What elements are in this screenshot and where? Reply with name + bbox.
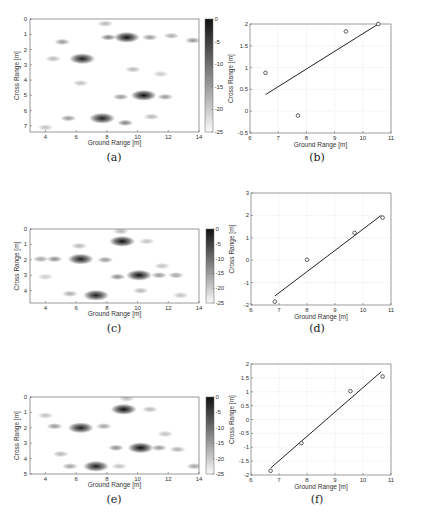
colorbar-tick-label: -5 bbox=[216, 241, 222, 247]
y-tick-label: 1 bbox=[24, 241, 28, 247]
x-tick-label: 6 bbox=[74, 476, 78, 482]
colorbar-tick-label: 0 bbox=[216, 226, 220, 232]
y-tick-label: 0 bbox=[246, 417, 250, 423]
heatmap-blob bbox=[97, 257, 113, 263]
heatmap-blob bbox=[96, 423, 112, 429]
heatmap-blob bbox=[37, 274, 53, 280]
colorbar-tick-label: 0 bbox=[216, 394, 220, 400]
colorbar-tick-label: -20 bbox=[216, 285, 225, 291]
heatmap-blob bbox=[73, 80, 89, 86]
colorbar-tick-label: -25 bbox=[216, 300, 225, 306]
heatmap-blob bbox=[53, 451, 69, 457]
y-tick-label: 1 bbox=[24, 409, 28, 415]
heatmap-blob bbox=[37, 124, 53, 130]
x-tick-label: 14 bbox=[196, 134, 203, 140]
colorbar-tick-label: -5 bbox=[215, 39, 221, 45]
colorbar-tick-label: 0 bbox=[215, 16, 219, 22]
heatmap-blob bbox=[114, 32, 140, 43]
x-tick-label: 14 bbox=[196, 305, 203, 311]
x-tick-label: 12 bbox=[165, 134, 172, 140]
x-tick-label: 6 bbox=[74, 305, 78, 311]
x-tick-label: 10 bbox=[359, 135, 366, 141]
x-axis-label: Ground Range [m] bbox=[88, 139, 142, 147]
y-tick-label: -1.5 bbox=[239, 458, 250, 464]
x-tick-label: 6 bbox=[249, 307, 253, 313]
heatmap-blob bbox=[62, 463, 78, 469]
y-tick-label: 0.5 bbox=[240, 86, 249, 92]
heatmap-blob bbox=[109, 236, 135, 247]
data-point bbox=[305, 258, 309, 262]
panel-caption: (b) bbox=[309, 151, 325, 164]
x-axis-label: Ground Range [m] bbox=[294, 141, 348, 149]
y-tick-label: 1 bbox=[245, 65, 249, 71]
y-axis-label: Cross Range [m] bbox=[13, 51, 21, 100]
y-tick-label: 1.5 bbox=[241, 375, 250, 381]
heatmap-blob bbox=[173, 292, 189, 298]
y-tick-label: 2 bbox=[246, 212, 250, 218]
heatmap-blob bbox=[128, 442, 154, 453]
scatter-panel-d: 67891011-2-10123Ground Range [m]Cross Ra… bbox=[228, 190, 395, 335]
x-tick-label: 14 bbox=[196, 476, 203, 482]
heatmap-blob bbox=[83, 290, 109, 301]
heatmap-blob bbox=[163, 33, 179, 39]
heatmap-blob bbox=[60, 115, 76, 121]
y-tick-label: 0 bbox=[24, 394, 28, 400]
heatmap-blob bbox=[110, 274, 126, 280]
x-axis-label: Ground Range [m] bbox=[294, 483, 348, 491]
heatmap-blob bbox=[186, 463, 202, 469]
heatmap-blob bbox=[151, 445, 167, 451]
y-tick-label: -0.5 bbox=[238, 130, 249, 136]
heatmap-blob bbox=[68, 254, 94, 265]
data-point bbox=[273, 300, 277, 304]
data-point bbox=[381, 216, 385, 220]
heatmap-blob bbox=[83, 461, 109, 472]
heatmap-blob bbox=[62, 291, 78, 297]
y-tick-label: 3 bbox=[24, 440, 28, 446]
heatmap-blob bbox=[125, 66, 141, 72]
y-tick-label: 2 bbox=[24, 257, 28, 263]
y-tick-label: 1 bbox=[246, 389, 250, 395]
heatmap-blob bbox=[117, 120, 133, 126]
x-tick-label: 10 bbox=[360, 477, 367, 483]
heatmap-blob bbox=[142, 406, 158, 412]
y-tick-label: -0.5 bbox=[239, 430, 250, 436]
colorbar-tick-label: -20 bbox=[215, 106, 224, 112]
colorbar bbox=[205, 19, 213, 132]
heatmap-blob bbox=[71, 243, 87, 249]
heatmap-blob bbox=[37, 412, 53, 418]
y-tick-label: -2 bbox=[244, 472, 250, 478]
heatmap-blob bbox=[111, 404, 137, 415]
heatmap-blob bbox=[119, 395, 135, 401]
y-axis-label: Cross Range [m] bbox=[228, 395, 236, 444]
data-point bbox=[381, 375, 385, 379]
x-tick-label: 6 bbox=[248, 135, 252, 141]
y-axis-label: Cross Range [m] bbox=[227, 54, 235, 103]
heatmap-blob bbox=[157, 431, 173, 437]
panel-caption: (d) bbox=[309, 322, 325, 335]
x-axis-label: Ground Range [m] bbox=[294, 313, 348, 321]
colorbar-tick-label: -25 bbox=[216, 471, 225, 477]
heatmap-blob bbox=[133, 287, 149, 293]
heatmap-blob bbox=[47, 423, 63, 429]
panel-caption: (f) bbox=[311, 493, 324, 506]
colorbar-tick-label: -5 bbox=[216, 409, 222, 415]
y-tick-label: 4 bbox=[24, 77, 28, 83]
x-tick-label: 11 bbox=[388, 307, 395, 313]
heatmap-panel-e: 468101214012345Ground Range [m]Cross Ran… bbox=[13, 394, 225, 506]
x-tick-label: 6 bbox=[74, 134, 78, 140]
heatmap-blob bbox=[89, 113, 115, 124]
heatmap-panel-c: 46810121401234Ground Range [m]Cross Rang… bbox=[13, 226, 225, 335]
data-point bbox=[344, 30, 348, 34]
heatmap-blob bbox=[100, 34, 116, 40]
heatmap-blob bbox=[168, 272, 184, 278]
panel-caption: (e) bbox=[106, 493, 121, 506]
heatmap-blob bbox=[139, 238, 155, 244]
y-tick-label: 5 bbox=[24, 471, 28, 477]
plot-area bbox=[251, 193, 391, 305]
y-tick-label: 4 bbox=[24, 288, 28, 294]
heatmap-blob bbox=[111, 463, 127, 469]
y-tick-label: 5 bbox=[24, 92, 28, 98]
heatmap-blob bbox=[153, 71, 169, 77]
figure: 46810121401234567Ground Range [m]Cross R… bbox=[0, 0, 431, 524]
y-tick-label: 0 bbox=[246, 257, 250, 263]
